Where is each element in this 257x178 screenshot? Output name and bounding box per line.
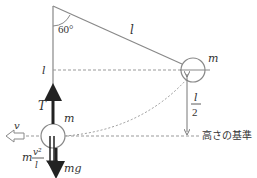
weight-label: mg xyxy=(64,162,81,175)
velocity-label: v xyxy=(14,120,20,131)
half-length-denominator: 2 xyxy=(192,106,198,118)
mass-lower-label: m xyxy=(64,112,74,125)
tension-label: T xyxy=(38,99,47,113)
slanted-string xyxy=(53,6,182,64)
reference-label: 高さの基準 xyxy=(202,129,252,141)
string-length-label: l xyxy=(130,23,134,37)
centrifugal-prefix: m xyxy=(22,151,32,164)
lower-bob xyxy=(41,124,65,148)
mass-upper-label: m xyxy=(208,52,218,65)
half-length-numerator: l xyxy=(194,91,198,104)
centrifugal-numerator: v² xyxy=(33,147,42,157)
angle-label: 60° xyxy=(58,23,73,35)
swing-path xyxy=(65,80,186,136)
velocity-arrow xyxy=(6,130,24,142)
pendulum-diagram: 60° l l m l 2 高さの基準 m T v m v² l mg xyxy=(0,0,257,178)
centrifugal-denominator: l xyxy=(35,160,38,170)
height-label-left: l xyxy=(42,64,46,77)
